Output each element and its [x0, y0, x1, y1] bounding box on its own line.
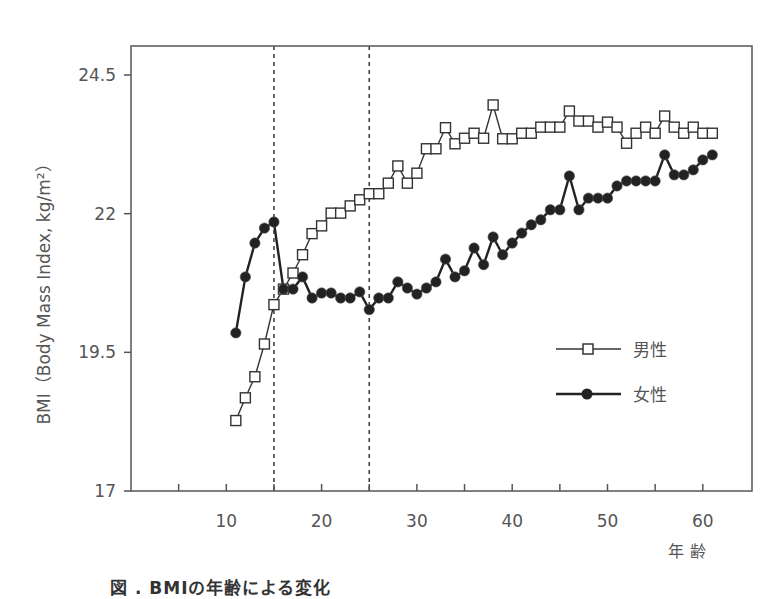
data-point-male: [240, 393, 250, 403]
data-point-male: [374, 189, 384, 199]
data-point-male: [603, 117, 613, 127]
y-tick-label: 24.5: [78, 65, 116, 85]
data-point-female: [488, 232, 498, 242]
data-point-female: [469, 243, 479, 253]
data-point-female: [450, 272, 460, 282]
filled-circle-marker-icon: [582, 389, 593, 400]
data-point-female: [707, 150, 717, 160]
data-point-female: [621, 176, 631, 186]
data-point-male: [269, 300, 279, 310]
data-point-male: [231, 416, 241, 426]
open-square-marker-icon: [583, 344, 593, 354]
data-point-female: [631, 176, 641, 186]
data-point-male: [650, 128, 660, 138]
x-axis-title: 年 齢: [668, 542, 705, 561]
data-point-female: [335, 293, 345, 303]
data-point-female: [459, 266, 469, 276]
data-point-female: [269, 217, 279, 227]
y-tick-label: 17: [94, 481, 116, 501]
data-point-male: [688, 122, 698, 132]
x-tick-label: 30: [406, 511, 428, 531]
data-point-male: [641, 122, 651, 132]
y-tick-label: 22: [94, 204, 116, 224]
data-point-female: [374, 293, 384, 303]
data-point-female: [659, 150, 669, 160]
series-layer: [231, 100, 718, 426]
legend-label-female: 女性: [633, 385, 667, 405]
data-point-female: [679, 170, 689, 180]
data-point-female: [517, 228, 527, 238]
data-point-female: [345, 293, 355, 303]
x-tick-label: 20: [311, 511, 333, 531]
data-point-female: [288, 284, 298, 294]
data-point-female: [316, 288, 326, 298]
data-point-female: [536, 215, 546, 225]
data-point-female: [698, 155, 708, 165]
data-point-male: [498, 134, 508, 144]
x-tick-label: 10: [215, 511, 237, 531]
series-male: [231, 100, 718, 426]
data-point-female: [240, 272, 250, 282]
y-axis-title: BMI（Body Mass Index, kg/m²）: [34, 155, 54, 424]
data-point-female: [545, 205, 555, 215]
data-point-male: [507, 134, 517, 144]
data-point-female: [402, 283, 412, 293]
data-point-male: [488, 100, 498, 110]
x-tick-label: 50: [597, 511, 619, 531]
data-point-female: [650, 176, 660, 186]
data-point-male: [555, 122, 565, 132]
data-point-male: [593, 122, 603, 132]
data-point-male: [536, 122, 546, 132]
data-point-male: [383, 178, 393, 188]
data-point-male: [564, 106, 574, 116]
data-point-female: [259, 223, 269, 233]
data-point-female: [431, 277, 441, 287]
data-point-female: [393, 277, 403, 287]
y-axis: 1719.52224.5: [78, 65, 131, 501]
data-point-male: [250, 372, 260, 382]
data-point-female: [421, 283, 431, 293]
data-point-female: [250, 238, 260, 248]
data-point-male: [631, 128, 641, 138]
data-point-male: [660, 111, 670, 121]
data-point-male: [517, 128, 527, 138]
data-point-female: [412, 289, 422, 299]
data-point-male: [526, 128, 536, 138]
data-point-male: [317, 221, 327, 231]
data-point-male: [336, 208, 346, 218]
data-point-female: [278, 284, 288, 294]
y-tick-label: 19.5: [78, 342, 116, 362]
data-point-male: [479, 133, 489, 143]
legend: 男性 女性: [556, 340, 667, 405]
data-point-female: [326, 288, 336, 298]
data-point-male: [402, 178, 412, 188]
data-point-male: [545, 122, 555, 132]
data-point-male: [307, 229, 317, 239]
data-point-male: [469, 128, 479, 138]
series-female: [231, 150, 718, 338]
data-point-male: [698, 128, 708, 138]
legend-label-male: 男性: [633, 340, 667, 360]
data-point-female: [583, 193, 593, 203]
data-point-female: [355, 287, 365, 297]
data-point-female: [478, 259, 488, 269]
data-point-male: [364, 189, 374, 199]
data-point-male: [288, 268, 298, 278]
data-point-male: [622, 138, 632, 148]
data-point-female: [669, 170, 679, 180]
data-point-male: [707, 128, 717, 138]
data-point-male: [298, 250, 308, 260]
data-point-male: [450, 139, 460, 149]
legend-item-female: 女性: [556, 385, 667, 405]
legend-item-male: 男性: [556, 340, 667, 360]
data-point-male: [460, 133, 470, 143]
data-point-male: [345, 201, 355, 211]
data-point-male: [326, 208, 336, 218]
data-point-female: [640, 176, 650, 186]
data-point-male: [421, 144, 431, 154]
data-point-male: [355, 195, 365, 205]
x-tick-label: 60: [692, 511, 714, 531]
data-point-female: [440, 254, 450, 264]
data-point-male: [393, 161, 403, 171]
